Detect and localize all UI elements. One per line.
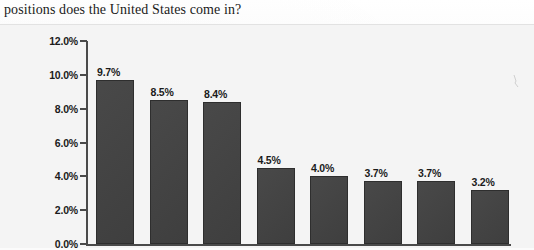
bar <box>417 181 455 244</box>
bar <box>471 190 509 244</box>
bars-group: 9.7%8.5%8.4%4.5%4.0%3.7%3.7%3.2% <box>0 25 534 248</box>
bar-value-label: 4.5% <box>258 154 281 166</box>
bar <box>96 80 134 244</box>
scan-artifact-icon <box>513 74 519 88</box>
plot-area: 0.0%2.0%4.0%6.0%8.0%10.0%12.0% 9.7%8.5%8… <box>0 25 534 248</box>
bar <box>364 181 402 244</box>
bar <box>203 102 241 244</box>
bar <box>150 100 188 244</box>
bar <box>257 168 295 244</box>
bar-value-label: 4.0% <box>311 162 334 174</box>
bar-value-label: 3.7% <box>418 167 441 179</box>
bar <box>310 176 348 244</box>
bar-chart: 0.0%2.0%4.0%6.0%8.0%10.0%12.0% 9.7%8.5%8… <box>0 24 534 248</box>
bar-value-label: 3.7% <box>365 167 388 179</box>
bar-value-label: 3.2% <box>472 176 495 188</box>
bar-value-label: 8.4% <box>204 88 227 100</box>
bar-value-label: 9.7% <box>97 66 120 78</box>
question-text: positions does the United States come in… <box>4 0 524 19</box>
bar-value-label: 8.5% <box>151 86 174 98</box>
